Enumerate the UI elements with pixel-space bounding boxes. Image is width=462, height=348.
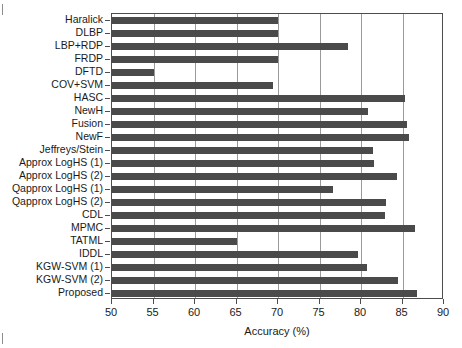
x-tick-90 <box>443 299 444 304</box>
bar-row <box>112 186 442 193</box>
bar-fusion <box>112 121 407 128</box>
y-label-newf: NewF <box>76 131 103 142</box>
bar-row <box>112 17 442 24</box>
y-label-approx-loghs-2: Approx LogHS (2) <box>19 170 103 181</box>
x-tick-label-80: 80 <box>343 306 377 318</box>
y-label-lbp-rdp: LBP+RDP <box>55 40 103 51</box>
bar-lbp-rdp <box>112 43 348 50</box>
y-tick-2 <box>105 46 110 47</box>
bar-hasc <box>112 95 405 102</box>
y-label-newh: NewH <box>74 105 103 116</box>
x-tick-label-50: 50 <box>94 306 128 318</box>
bar-approx-loghs-1 <box>112 160 374 167</box>
y-label-qapprox-loghs-1: Qapprox LogHS (1) <box>12 183 103 194</box>
plot-area <box>111 13 443 299</box>
bar-row <box>112 199 442 206</box>
x-tick-80 <box>360 299 361 304</box>
x-tick-65 <box>236 299 237 304</box>
bar-row <box>112 30 442 37</box>
y-label-cov-svm: COV+SVM <box>51 79 103 90</box>
bar-newf <box>112 134 409 141</box>
bar-row <box>112 82 442 89</box>
bar-row <box>112 108 442 115</box>
y-tick-12 <box>105 176 110 177</box>
x-tick-60 <box>194 299 195 304</box>
bar-row <box>112 160 442 167</box>
bar-row <box>112 95 442 102</box>
bar-mpmc <box>112 225 415 232</box>
y-tick-14 <box>105 202 110 203</box>
y-tick-4 <box>105 72 110 73</box>
bar-row <box>112 121 442 128</box>
x-axis-title: Accuracy (%) <box>111 325 443 337</box>
bar-row <box>112 43 442 50</box>
y-label-iddl: IDDL <box>79 248 103 259</box>
bar-tatml <box>112 238 237 245</box>
y-label-dftd: DFTD <box>75 66 103 77</box>
y-label-jeffreys-stein: Jeffreys/Stein <box>40 144 103 155</box>
y-label-approx-loghs-1: Approx LogHS (1) <box>19 157 103 168</box>
y-tick-21 <box>105 293 110 294</box>
y-label-cdl: CDL <box>82 209 103 220</box>
y-tick-19 <box>105 267 110 268</box>
bar-iddl <box>112 251 358 258</box>
y-label-hasc: HASC <box>74 92 103 103</box>
bar-row <box>112 225 442 232</box>
x-tick-label-65: 65 <box>219 306 253 318</box>
x-tick-label-70: 70 <box>260 306 294 318</box>
x-tick-70 <box>277 299 278 304</box>
bar-haralick <box>112 17 278 24</box>
bar-qapprox-loghs-2 <box>112 199 386 206</box>
y-label-haralick: Haralick <box>65 14 103 25</box>
y-tick-0 <box>105 20 110 21</box>
y-axis-category-labels: HaralickDLBPLBP+RDPFRDPDFTDCOV+SVMHASCNe… <box>0 13 108 299</box>
y-label-qapprox-loghs-2: Qapprox LogHS (2) <box>12 196 103 207</box>
x-tick-label-75: 75 <box>302 306 336 318</box>
y-tick-18 <box>105 254 110 255</box>
y-tick-15 <box>105 215 110 216</box>
bar-row <box>112 264 442 271</box>
x-tick-label-55: 55 <box>136 306 170 318</box>
bar-chart-figure: HaralickDLBPLBP+RDPFRDPDFTDCOV+SVMHASCNe… <box>0 0 462 348</box>
bar-cdl <box>112 212 385 219</box>
y-tick-1 <box>105 33 110 34</box>
x-tick-75 <box>319 299 320 304</box>
y-tick-6 <box>105 98 110 99</box>
y-tick-3 <box>105 59 110 60</box>
y-label-tatml: TATML <box>70 235 103 246</box>
x-tick-label-90: 90 <box>426 306 460 318</box>
bar-series <box>112 14 442 298</box>
y-tick-13 <box>105 189 110 190</box>
bar-row <box>112 277 442 284</box>
bar-kgw-svm-1 <box>112 264 367 271</box>
y-tick-7 <box>105 111 110 112</box>
bar-dlbp <box>112 30 278 37</box>
y-label-kgw-svm-1: KGW-SVM (1) <box>36 261 103 272</box>
y-label-mpmc: MPMC <box>71 222 103 233</box>
bar-row <box>112 238 442 245</box>
x-tick-50 <box>111 299 112 304</box>
bar-row <box>112 173 442 180</box>
y-tick-11 <box>105 163 110 164</box>
y-label-dlbp: DLBP <box>76 27 103 38</box>
bar-kgw-svm-2 <box>112 277 398 284</box>
bar-cov-svm <box>112 82 273 89</box>
bar-jeffreys-stein <box>112 147 373 154</box>
bar-frdp <box>112 56 278 63</box>
bar-row <box>112 56 442 63</box>
x-tick-label-85: 85 <box>385 306 419 318</box>
y-tick-8 <box>105 124 110 125</box>
bar-row <box>112 147 442 154</box>
bar-row <box>112 251 442 258</box>
y-label-kgw-svm-2: KGW-SVM (2) <box>36 274 103 285</box>
y-label-proposed: Proposed <box>58 287 103 298</box>
bar-qapprox-loghs-1 <box>112 186 333 193</box>
y-label-frdp: FRDP <box>74 53 103 64</box>
y-label-fusion: Fusion <box>71 118 103 129</box>
y-tick-16 <box>105 228 110 229</box>
y-tick-20 <box>105 280 110 281</box>
y-tick-17 <box>105 241 110 242</box>
bar-proposed <box>112 290 417 297</box>
x-tick-85 <box>402 299 403 304</box>
page-edge-mark-bottom <box>2 333 3 344</box>
